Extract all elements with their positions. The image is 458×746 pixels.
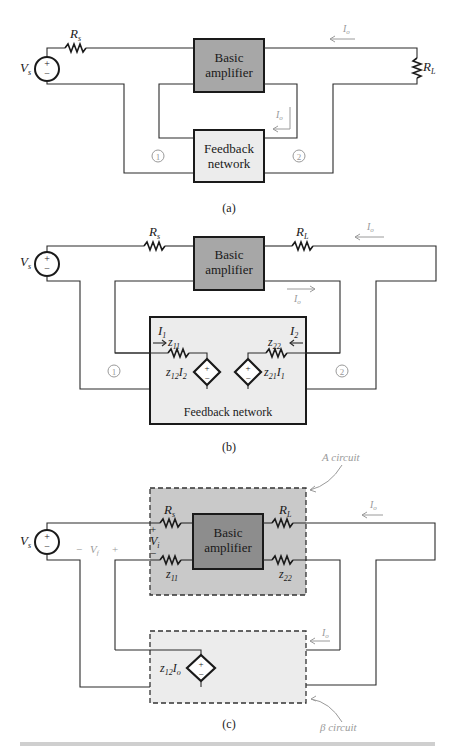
panel-a-label: (a) (222, 201, 235, 215)
rs-resistor (144, 242, 165, 250)
svg-text:Io: Io (293, 293, 301, 306)
rl-label: RL (422, 59, 436, 76)
panel-b: + − Vs Rs Basic amplifier RL Io Io + − +… (20, 221, 436, 454)
svg-text:−: − (198, 669, 203, 679)
svg-text:−: − (204, 373, 209, 383)
svg-text:−: − (44, 263, 50, 274)
svg-text:+: + (245, 363, 250, 373)
panel-b-label: (b) (222, 440, 236, 454)
svg-text:Feedback: Feedback (204, 141, 254, 156)
rs-label: Rs (69, 26, 81, 43)
rs-resistor (65, 44, 86, 52)
svg-text:1: 1 (112, 367, 117, 377)
vs-label: Vs (20, 60, 31, 77)
svg-text:−: − (44, 541, 50, 552)
svg-text:1: 1 (156, 152, 161, 162)
svg-text:Basic: Basic (214, 525, 243, 540)
svg-text:Vs: Vs (20, 254, 31, 271)
rl-resistor (292, 242, 313, 250)
svg-text:2: 2 (297, 152, 302, 162)
svg-text:Io: Io (342, 23, 350, 36)
svg-text:Vf: Vf (90, 543, 100, 557)
panel-c-label: (c) (222, 717, 235, 731)
svg-text:network: network (208, 156, 251, 171)
svg-text:Io: Io (275, 109, 283, 122)
a-circuit-label: A circuit (321, 451, 361, 463)
svg-text:−: − (76, 543, 82, 555)
svg-text:−: − (44, 68, 50, 79)
svg-text:Rs: Rs (148, 224, 160, 241)
svg-text:amplifier: amplifier (205, 262, 253, 277)
caption-cutoff (20, 742, 435, 746)
svg-text:−: − (150, 547, 156, 559)
panel-c: A circuit + − Vs Rs + Vi − − Vf + z11 Ba… (20, 451, 435, 733)
svg-text:+: + (198, 659, 203, 669)
feedback-amplifier-figure: + − Vs Rs Basic amplifier RL Io Io Feedb… (0, 0, 458, 746)
svg-text:+: + (112, 543, 118, 555)
svg-text:Vs: Vs (20, 533, 31, 550)
svg-text:Io: Io (321, 627, 329, 640)
svg-text:Io: Io (366, 221, 374, 234)
svg-text:Io: Io (369, 499, 377, 512)
svg-text:amplifier: amplifier (204, 540, 252, 555)
panel-a: + − Vs Rs Basic amplifier RL Io Io Feedb… (20, 23, 436, 215)
svg-text:Basic: Basic (215, 50, 244, 65)
svg-text:−: − (245, 373, 250, 383)
svg-text:Feedback network: Feedback network (184, 405, 272, 419)
svg-text:Basic: Basic (215, 247, 244, 262)
rl-resistor (413, 58, 421, 78)
beta-circuit-label: β circuit (319, 721, 357, 733)
svg-text:RL: RL (295, 224, 309, 241)
svg-text:+: + (204, 363, 209, 373)
svg-text:amplifier: amplifier (205, 65, 253, 80)
svg-text:2: 2 (340, 367, 345, 377)
